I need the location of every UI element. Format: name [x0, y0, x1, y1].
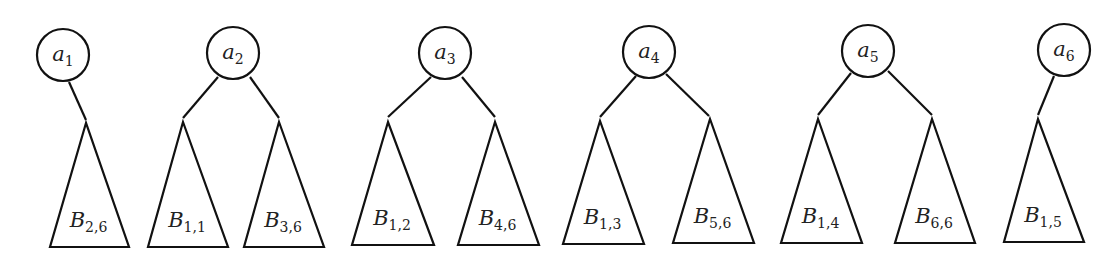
- subtree-label: B5,6: [693, 204, 732, 231]
- tree-6: B1,5a6: [1004, 24, 1090, 242]
- subtree-label: B2,6: [69, 208, 108, 235]
- subtree-label: B6,6: [914, 204, 953, 231]
- subtree-label: B3,6: [263, 208, 302, 235]
- tree-3: B1,2B4,6a3: [352, 27, 539, 245]
- tree-4: B1,3B5,6a4: [563, 26, 754, 244]
- subtree-label: B1,5: [1023, 203, 1062, 230]
- subtree-label: B1,3: [583, 205, 622, 232]
- edge: [388, 77, 431, 117]
- tree-2: B1,1B3,6a2: [148, 27, 324, 247]
- subtree-label: B1,1: [167, 208, 206, 235]
- edge: [600, 76, 636, 117]
- edge: [183, 77, 218, 118]
- edge: [69, 82, 86, 120]
- edge: [1038, 76, 1054, 115]
- edge: [462, 77, 495, 117]
- edge: [888, 71, 932, 115]
- tree-diagram: B2,6a1B1,1B3,6a2B1,2B4,6a3B1,3B5,6a4B1,4…: [0, 0, 1116, 264]
- edge: [250, 77, 279, 118]
- subtree-label: B1,2: [372, 206, 411, 233]
- subtree-label: B1,4: [801, 204, 840, 231]
- tree-1: B2,6a1: [37, 29, 129, 247]
- edge: [666, 74, 709, 116]
- edge: [818, 73, 851, 115]
- tree-5: B1,4B6,6a5: [781, 25, 975, 243]
- subtree-label: B4,6: [478, 206, 517, 233]
